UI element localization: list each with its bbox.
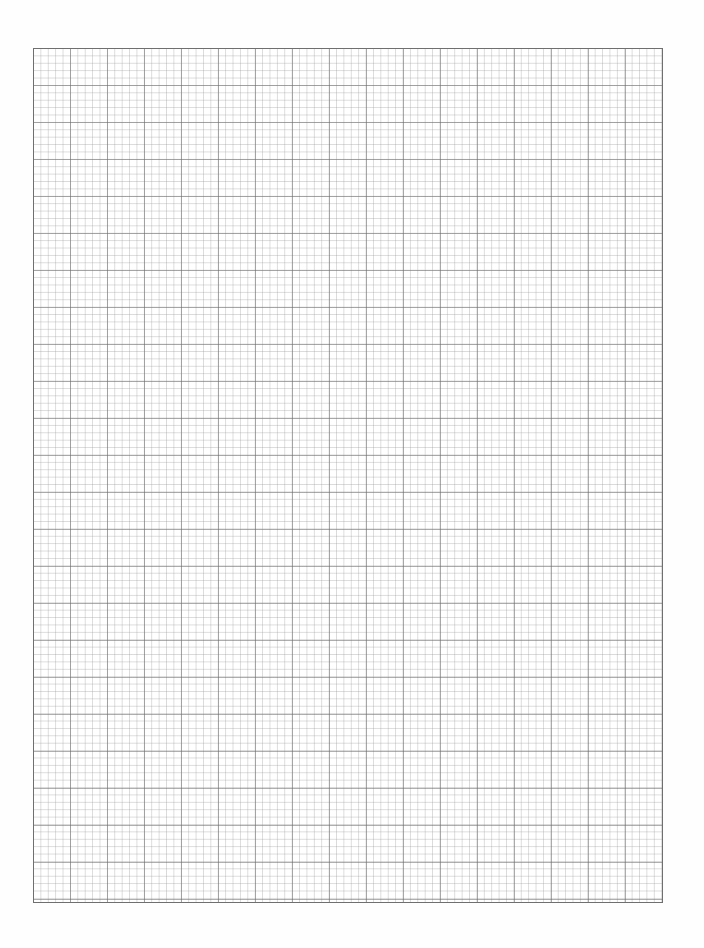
graph-grid: [33, 48, 663, 903]
graph-paper-page: [0, 0, 704, 948]
